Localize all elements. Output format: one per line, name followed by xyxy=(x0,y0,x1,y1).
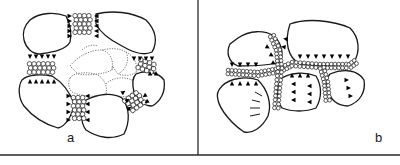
grain-contact-dot xyxy=(314,66,318,70)
grain-contact-dot xyxy=(273,106,277,110)
grain-contact-dot xyxy=(82,30,87,35)
grain-b-upper-right xyxy=(287,21,358,66)
grain-contact-dot xyxy=(327,95,331,99)
grain-contact-dot xyxy=(275,52,279,56)
grain-contact-dot xyxy=(274,48,278,52)
grain-contact-dot xyxy=(274,90,278,94)
grain-contact-dot xyxy=(337,66,341,70)
grain-top-right xyxy=(96,12,155,54)
figure-canvas xyxy=(0,0,400,165)
grain-contact-dot xyxy=(273,98,277,102)
grain-contact-dot xyxy=(252,74,256,78)
grain-contact-dot xyxy=(32,70,37,75)
grain-contact-dot xyxy=(318,62,322,66)
grain-contact-dot xyxy=(263,69,267,73)
grain-contact-dot xyxy=(327,87,331,91)
grain-contact-dot xyxy=(314,62,318,66)
grain-contact-dot xyxy=(36,70,41,75)
grain-contact-dot xyxy=(256,70,260,74)
grain-contact-dot xyxy=(237,73,241,77)
grain-contact-dot xyxy=(326,62,330,66)
grain-contact-dot xyxy=(302,61,306,65)
grain-contact-dot xyxy=(280,66,284,70)
grain-contact-dot xyxy=(298,65,302,69)
grain-contact-dot xyxy=(324,99,328,103)
grain-contact-dot xyxy=(278,90,282,94)
grain-contact-dot xyxy=(276,106,280,110)
grain-contact-dot xyxy=(276,70,280,74)
grain-contact-dot xyxy=(230,68,234,72)
grain-contact-dot xyxy=(333,66,337,70)
grain-contact-dot xyxy=(324,95,328,99)
panel-a-diagram xyxy=(19,12,164,137)
grain-contact-dot xyxy=(275,56,279,60)
grain-contact-dot xyxy=(323,88,327,92)
grain-contact-dot xyxy=(278,51,282,55)
dissolved-grain-outlines xyxy=(69,45,138,97)
grain-contact-dot xyxy=(310,65,314,69)
grain-contact-dot xyxy=(279,59,283,63)
grain-contact-dot xyxy=(306,65,310,69)
grain-b-lower-middle xyxy=(278,73,321,111)
stress-arrow-icon xyxy=(94,34,103,38)
grain-contact-dot xyxy=(278,82,282,86)
grain-contact-dot xyxy=(277,98,281,102)
grain-contact-dot xyxy=(256,74,260,78)
grain-contact-dot xyxy=(274,86,278,90)
grain-contact-dot xyxy=(277,94,281,98)
grain-contact-dot xyxy=(226,68,230,72)
grain-contact-dot xyxy=(27,70,32,75)
grain-contact-dot xyxy=(260,73,264,77)
grain-contact-dot xyxy=(310,62,314,66)
grain-contact-dot xyxy=(333,62,337,66)
grain-contact-dot xyxy=(326,80,330,84)
grain-contact-dot xyxy=(278,86,282,90)
grain-contact-dot xyxy=(325,76,329,80)
grain-contact-dot xyxy=(329,66,333,70)
grain-contact-dot xyxy=(328,98,332,102)
grain-contact-dot xyxy=(326,84,330,88)
grain-contact-dot xyxy=(237,69,241,73)
grain-contact-dot xyxy=(277,102,281,106)
grain-contact-dot xyxy=(280,70,284,74)
grain-contact-dot xyxy=(87,30,92,35)
grain-bottom-middle xyxy=(82,94,129,137)
grain-contact-dot xyxy=(267,72,271,76)
grain-contact-dot xyxy=(274,94,278,98)
grain-contact-dot xyxy=(249,70,253,74)
grain-top-left xyxy=(23,13,71,54)
grain-contact-dot xyxy=(294,64,298,68)
grain-contact-dot xyxy=(245,73,249,77)
panel-b-diagram xyxy=(217,21,364,133)
contact-cluster xyxy=(27,62,56,75)
grain-contact-dot xyxy=(264,73,268,77)
grain-contact-dot xyxy=(290,60,294,64)
grain-contact-dot xyxy=(241,73,245,77)
grain-contact-dot xyxy=(233,72,237,76)
grain-contact-dot xyxy=(234,69,238,73)
grain-contact-dot xyxy=(241,69,245,73)
grain-contact-dot xyxy=(344,66,348,70)
grain-contact-dot xyxy=(271,71,275,75)
grain-contact-dot xyxy=(355,62,359,66)
grain-b-lower-left xyxy=(217,78,269,132)
grain-contact-dot xyxy=(46,70,51,75)
panel-label-a: a xyxy=(67,130,74,145)
grain-contact-dot xyxy=(280,62,284,66)
grain-contact-dot xyxy=(248,73,252,77)
grain-contact-dot xyxy=(50,70,55,75)
grain-b-right xyxy=(327,71,365,106)
grain-contact-dot xyxy=(323,91,327,95)
grain-contact-dot xyxy=(259,70,263,74)
grain-contact-dot xyxy=(77,116,82,121)
grain-contact-dot xyxy=(245,69,249,73)
grain-contact-dot xyxy=(323,84,327,88)
grain-contact-dot xyxy=(341,62,345,66)
grain-contact-dot xyxy=(275,82,279,86)
grain-contact-dot xyxy=(302,65,306,69)
grain-contact-dot xyxy=(294,60,298,64)
grain-contact-dot xyxy=(230,72,234,76)
grain-contact-dot xyxy=(77,30,82,35)
grain-contact-dot xyxy=(290,64,294,68)
grain-contact-dot xyxy=(279,74,283,78)
